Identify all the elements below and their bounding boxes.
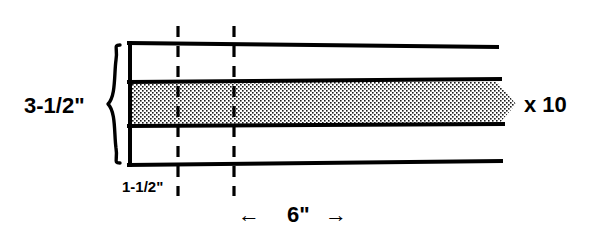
length-dimension-group: ← 6" → — [238, 202, 347, 227]
length-arrow-right-icon: → — [325, 202, 347, 227]
length-dimension-label: 6" — [287, 202, 310, 227]
hatched-strip — [130, 82, 516, 126]
top-edge — [129, 43, 497, 47]
length-arrow-left-icon: ← — [238, 202, 260, 227]
height-dimension-label: 3-1/2" — [24, 93, 85, 118]
lumber-cut-diagram: 3-1/2" 1-1/2" ← 6" → x 10 — [0, 0, 604, 229]
strip-top-edge — [129, 79, 500, 82]
bottom-edge — [129, 161, 501, 165]
width-dimension-label: 1-1/2" — [122, 178, 163, 195]
quantity-label: x 10 — [524, 92, 567, 117]
strip-bottom-edge — [129, 124, 503, 126]
height-brace — [108, 45, 120, 163]
diagram-canvas: 3-1/2" 1-1/2" ← 6" → x 10 — [0, 0, 604, 229]
